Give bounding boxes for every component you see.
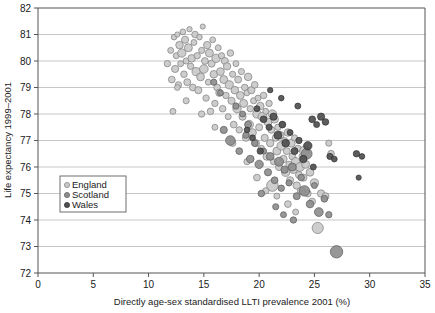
y-tick-label: 79	[20, 82, 32, 93]
data-point	[290, 217, 296, 223]
data-point	[293, 193, 300, 200]
data-point	[178, 61, 184, 67]
data-point	[266, 100, 272, 106]
data-point	[178, 49, 186, 57]
data-point	[191, 39, 197, 45]
data-point	[300, 155, 307, 162]
data-point	[304, 142, 312, 150]
x-axis-title: Directly age-sex standardised LLTI preva…	[114, 296, 350, 307]
data-point	[244, 127, 250, 133]
data-point	[236, 127, 242, 133]
data-point	[170, 108, 176, 114]
data-point	[194, 53, 200, 59]
x-tick-label: 15	[198, 279, 210, 290]
data-point	[197, 73, 205, 81]
data-point	[235, 76, 242, 83]
x-tick-label: 0	[35, 279, 41, 290]
data-point	[275, 157, 284, 166]
data-point	[331, 156, 337, 162]
data-point	[293, 209, 299, 215]
data-point	[236, 148, 243, 155]
data-point	[195, 87, 202, 94]
data-point	[271, 177, 278, 184]
data-point	[220, 126, 227, 133]
data-point	[260, 92, 267, 99]
x-tick-label: 35	[419, 279, 431, 290]
x-tick-label: 30	[364, 279, 376, 290]
data-point	[203, 41, 210, 48]
y-tick-label: 73	[20, 241, 32, 252]
data-point	[244, 73, 252, 81]
data-point	[180, 29, 186, 35]
data-point	[233, 61, 239, 67]
data-point	[212, 100, 218, 106]
data-point	[296, 137, 302, 143]
data-point	[312, 222, 323, 233]
data-point	[172, 65, 179, 72]
data-point	[278, 185, 284, 191]
data-point	[254, 174, 261, 181]
data-point	[174, 85, 180, 91]
data-point	[279, 121, 286, 128]
y-tick-label: 76	[20, 162, 32, 173]
data-point	[217, 68, 225, 76]
data-point	[183, 98, 189, 104]
y-tick-label: 80	[20, 56, 32, 67]
data-point	[215, 45, 221, 51]
data-point	[282, 139, 290, 147]
data-point	[210, 37, 216, 43]
data-point	[233, 103, 239, 109]
x-tick-label: 25	[309, 279, 321, 290]
data-point	[200, 65, 209, 74]
x-tick-label: 10	[143, 279, 155, 290]
data-point	[256, 124, 263, 131]
data-point	[284, 201, 291, 208]
data-point	[310, 164, 316, 170]
data-point	[238, 69, 244, 75]
data-point	[251, 81, 258, 88]
legend-label-wales: Wales	[72, 199, 98, 210]
scatter-chart-figure: 7273747576777879808182 05101520253035 Di…	[0, 0, 435, 313]
data-point	[322, 119, 329, 126]
x-tick-label: 20	[254, 279, 266, 290]
data-point	[255, 160, 263, 168]
data-point	[250, 135, 256, 141]
data-point	[197, 34, 203, 40]
data-point	[326, 212, 332, 218]
data-point	[278, 95, 284, 101]
data-point	[266, 124, 272, 130]
data-point	[240, 111, 246, 117]
data-point	[274, 193, 280, 199]
data-point	[274, 131, 282, 139]
data-point	[225, 114, 231, 120]
data-point	[258, 190, 265, 197]
data-point	[270, 113, 277, 120]
data-point	[266, 153, 274, 161]
legend: EnglandScotlandWales	[60, 176, 126, 212]
data-point	[311, 183, 317, 189]
data-point	[184, 79, 191, 86]
y-tick-label: 81	[20, 29, 32, 40]
data-point	[353, 151, 359, 157]
data-point	[203, 95, 209, 101]
data-point	[187, 27, 192, 32]
data-point	[247, 155, 255, 163]
data-point	[314, 208, 323, 217]
legend-marker-scotland	[64, 192, 69, 197]
y-tick-label: 77	[20, 135, 32, 146]
data-point	[247, 106, 253, 112]
data-point	[299, 186, 309, 196]
y-tick-label: 74	[20, 215, 32, 226]
data-point	[321, 195, 328, 202]
data-point	[217, 90, 223, 96]
data-point	[286, 180, 292, 186]
scatter-plot: 7273747576777879808182 05101520253035 Di…	[0, 0, 435, 313]
y-tick-label: 72	[20, 268, 32, 279]
data-point	[202, 58, 209, 65]
y-axis-title: Life expectancy 1999–2001	[2, 82, 13, 198]
data-point	[223, 63, 230, 70]
data-point	[309, 116, 316, 123]
data-point	[175, 32, 180, 37]
data-point	[298, 174, 305, 181]
data-point	[295, 103, 301, 109]
